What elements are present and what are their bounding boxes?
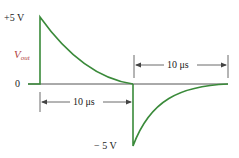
upper-dimension-label: 10 μs xyxy=(167,59,189,70)
lower-dimension-label: 10 μs xyxy=(73,96,95,107)
upper-arrow-left-icon xyxy=(135,63,141,68)
waveform-diagram: +5 V 0 − 5 V Vout 10 μs 10 μs xyxy=(0,0,239,158)
lower-arrow-right-icon xyxy=(126,100,132,105)
vout-label: Vout xyxy=(14,48,31,62)
upper-arrow-right-icon xyxy=(221,63,227,68)
minus-5v-label: − 5 V xyxy=(94,140,117,151)
plus-5v-label: +5 V xyxy=(4,12,25,23)
zero-label: 0 xyxy=(15,78,20,89)
positive-pulse-curve xyxy=(28,17,133,84)
lower-arrow-left-icon xyxy=(41,100,47,105)
negative-pulse-curve xyxy=(133,84,228,146)
